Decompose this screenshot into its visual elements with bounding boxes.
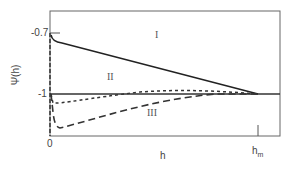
plot-frame (50, 11, 280, 136)
y-tick-label-top: -0.7 (31, 28, 48, 38)
curve-I (51, 35, 258, 94)
chart-canvas (0, 0, 294, 172)
curve-label-III: III (147, 108, 157, 118)
curve-label-I: I (155, 30, 158, 40)
y-tick-label-minus-one: -1 (38, 89, 47, 99)
x-axis-label: h (160, 151, 166, 161)
curve-label-II: II (107, 72, 114, 82)
hm-sub: m (258, 151, 264, 158)
x-tick-label-zero: 0 (47, 139, 53, 149)
curve-II (51, 91, 258, 104)
x-tick-label-hm: hm (252, 146, 263, 158)
y-axis-label: Ψ(h) (11, 65, 21, 86)
